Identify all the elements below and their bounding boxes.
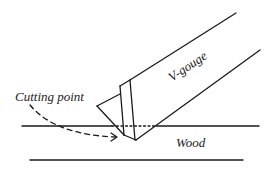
gouge-end-top	[120, 80, 130, 86]
gouge-bevel-left	[120, 86, 124, 135]
gouge-wing-top	[97, 94, 120, 106]
gouge-bevel-right	[130, 80, 135, 140]
diagram-canvas: Cutting point Wood V-gouge	[0, 0, 270, 170]
cutting-point-label: Cutting point	[15, 89, 84, 104]
gouge-wing-bottom	[97, 106, 124, 135]
v-gouge-diagram: Cutting point Wood V-gouge	[0, 0, 270, 170]
cutting-point-arrow	[30, 105, 116, 137]
wood-label: Wood	[176, 135, 206, 150]
